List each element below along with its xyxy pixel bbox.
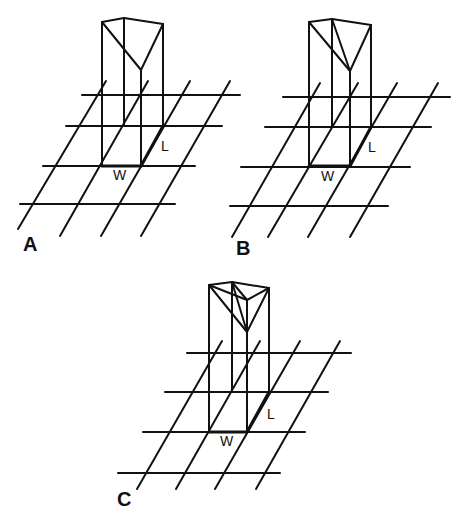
- panel-b: W L B: [230, 19, 450, 259]
- panel-label-b: B: [236, 237, 250, 259]
- grid-b: [230, 83, 450, 237]
- width-label-a: W: [113, 167, 127, 183]
- grid-c: [118, 341, 351, 489]
- width-label-c: W: [220, 433, 234, 449]
- length-label-c: L: [267, 406, 275, 422]
- column-b: [309, 19, 371, 166]
- column-c: [209, 282, 269, 432]
- panel-a: W L A: [18, 18, 240, 255]
- panel-label-c: C: [117, 488, 131, 510]
- length-label-b: L: [368, 139, 376, 155]
- width-label-b: W: [321, 168, 335, 184]
- panel-c: W L C: [117, 282, 351, 510]
- grid-a: [18, 81, 240, 236]
- column-a: [102, 18, 163, 166]
- figure-canvas: W L A W L B: [0, 0, 470, 517]
- length-label-a: L: [161, 138, 169, 154]
- panel-label-a: A: [23, 233, 37, 255]
